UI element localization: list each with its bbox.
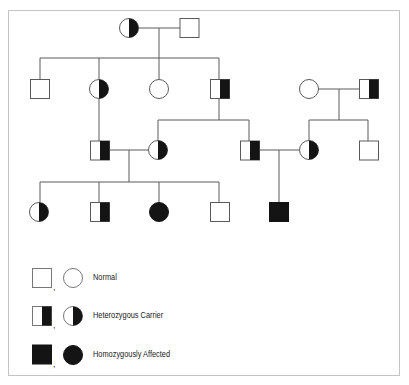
individual-IV-5-male-affected xyxy=(270,203,289,222)
individual-III-4-female-carrier xyxy=(300,141,319,160)
legend-carrier-symbols: , xyxy=(33,307,83,331)
legend-label-carrier: Heterozygous Carrier xyxy=(93,310,163,320)
individual-II-4-male-carrier xyxy=(211,80,230,99)
svg-text:,: , xyxy=(53,282,56,292)
individual-I-2-male-normal xyxy=(180,19,199,38)
legend-affected-symbols: , xyxy=(33,345,83,369)
svg-text:,: , xyxy=(53,320,56,330)
individual-III-5-male-normal xyxy=(360,141,379,160)
individual-IV-2-male-carrier xyxy=(91,203,110,222)
pedigree-chart: , , , xyxy=(0,0,409,385)
svg-text:,: , xyxy=(53,359,56,369)
individual-II-2-female-carrier xyxy=(90,80,109,99)
individual-I-1-female-carrier xyxy=(120,19,139,38)
individual-IV-4-male-normal xyxy=(211,203,230,222)
individual-II-5-female-normal xyxy=(300,80,319,99)
individual-III-3-male-carrier xyxy=(241,141,260,160)
legend-symbols: , , , xyxy=(33,269,83,370)
legend-label-normal: Normal xyxy=(93,272,117,282)
individual-II-1-male-normal xyxy=(31,80,50,99)
relationship-lines xyxy=(40,28,368,202)
individual-IV-3-female-affected xyxy=(150,203,169,222)
individual-II-3-female-normal xyxy=(150,80,169,99)
legend-normal-symbols: , xyxy=(33,269,83,293)
individual-IV-1-female-carrier xyxy=(30,203,49,222)
legend-label-affected: Homozygously Affected xyxy=(93,349,170,359)
individual-II-6-male-carrier xyxy=(360,80,379,99)
individual-III-2-female-carrier xyxy=(149,141,168,160)
individual-III-1-male-carrier xyxy=(91,141,110,160)
